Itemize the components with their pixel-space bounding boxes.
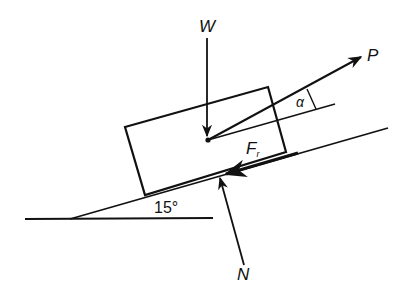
alpha-label: α [296,95,304,109]
free-body-diagram: W P α Fr N 15° [0,0,405,301]
normal-arrow [220,178,244,265]
block [125,87,286,195]
friction-subscript: r [256,149,259,159]
reference-line [208,104,335,140]
ground-line [25,218,213,219]
weight-label: W [199,18,215,35]
alpha-angle-mark [307,89,316,109]
friction-label: Fr [246,140,259,159]
diagram-lines [0,0,405,301]
pull-label: P [367,47,378,64]
normal-label: N [237,266,249,283]
friction-symbol: F [246,139,256,158]
friction-arrow [226,153,298,174]
incline-angle-label: 15° [154,200,178,216]
